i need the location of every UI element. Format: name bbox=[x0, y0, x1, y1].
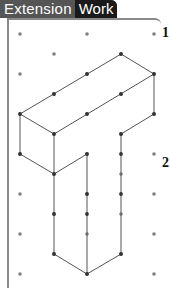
shape-vertex bbox=[85, 152, 89, 156]
grid-dot bbox=[152, 272, 156, 276]
shape-vertex bbox=[52, 92, 56, 96]
shape-vertex bbox=[52, 212, 56, 216]
shape-vertex bbox=[85, 72, 89, 76]
shape-vertex bbox=[85, 112, 89, 116]
shape-vertex bbox=[52, 132, 56, 136]
shape-vertex bbox=[119, 92, 123, 96]
shape-vertex bbox=[119, 152, 123, 156]
shape-edge bbox=[87, 254, 121, 274]
shape-vertex bbox=[18, 112, 22, 116]
shape-edge bbox=[54, 254, 87, 274]
grid-dot bbox=[18, 192, 22, 196]
shape-edge bbox=[121, 114, 154, 134]
grid-dot bbox=[18, 32, 22, 36]
grid-dot bbox=[85, 32, 89, 36]
shape-vertex bbox=[119, 192, 123, 196]
grid-dot bbox=[18, 272, 22, 276]
shape-vertex bbox=[119, 52, 123, 56]
grid-dot bbox=[18, 72, 22, 76]
shape-vertex bbox=[85, 192, 89, 196]
shape-vertex bbox=[119, 132, 123, 136]
shape-vertex bbox=[152, 72, 156, 76]
shape-vertex bbox=[85, 212, 89, 216]
shape-vertex bbox=[85, 272, 89, 276]
grid-dot bbox=[18, 232, 22, 236]
question-number-1: 1 bbox=[162, 25, 169, 41]
shape-vertex bbox=[18, 152, 22, 156]
shape-vertex bbox=[52, 252, 56, 256]
shape-vertex bbox=[152, 112, 156, 116]
shape-edge bbox=[121, 54, 154, 74]
shape-edge bbox=[54, 154, 87, 174]
shape-vertex bbox=[119, 252, 123, 256]
shape-vertex bbox=[52, 172, 56, 176]
grid-dot bbox=[152, 32, 156, 36]
shape-edge bbox=[20, 54, 121, 114]
shape-edge bbox=[20, 154, 54, 174]
grid-dot bbox=[152, 232, 156, 236]
grid-dot bbox=[152, 192, 156, 196]
question-number-2: 2 bbox=[162, 155, 169, 171]
shape-edge bbox=[54, 74, 154, 134]
grid-dot bbox=[152, 152, 156, 156]
shape-edge bbox=[20, 114, 54, 134]
grid-dot bbox=[52, 52, 56, 56]
